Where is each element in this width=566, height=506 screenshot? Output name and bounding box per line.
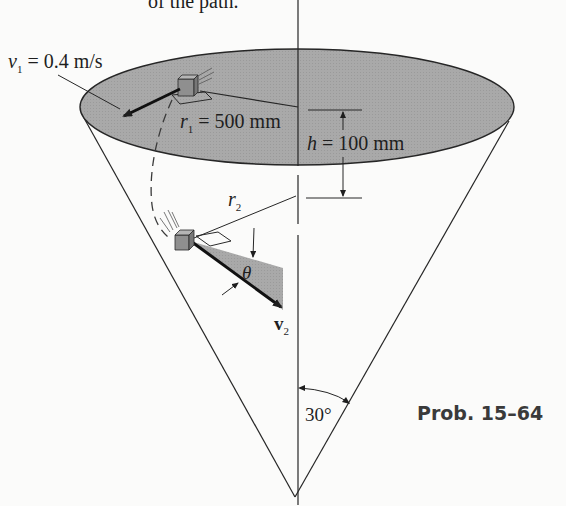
r1-label: r1 = 500 mm xyxy=(180,110,281,135)
cone-diagram: of the path. xyxy=(0,0,566,506)
angle-arc-30 xyxy=(300,388,348,402)
block2-motion-lines xyxy=(160,210,179,232)
cone-right-edge xyxy=(295,121,509,497)
block2-icon xyxy=(175,230,194,250)
theta-indicator-top xyxy=(253,228,254,257)
h-label: h = 100 mm xyxy=(307,132,405,154)
cone-left-edge xyxy=(84,118,295,497)
block2-footprint xyxy=(196,232,231,246)
v2-label: v2 xyxy=(274,313,289,337)
r2-radius-line xyxy=(194,196,296,238)
angle-arc-arrow-left xyxy=(298,385,305,391)
theta-label: θ xyxy=(242,262,251,283)
theta-indicator-bottom xyxy=(222,283,238,295)
figure-caption: Prob. 15–64 xyxy=(417,402,543,424)
angle-label: 30° xyxy=(305,404,332,425)
v1-label: v1 = 0.4 m/s xyxy=(8,50,103,75)
r2-label: r2 xyxy=(228,188,241,213)
block1-icon xyxy=(178,75,198,96)
angle-arc-arrow-right xyxy=(342,397,350,404)
top-text-fragment: of the path. xyxy=(148,0,239,13)
